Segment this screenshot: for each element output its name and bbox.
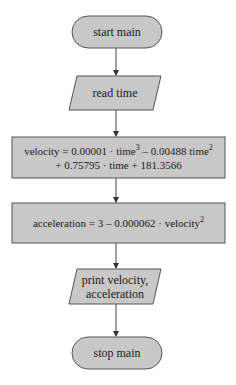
stop-node: stop main	[72, 337, 162, 369]
read-node: read time	[69, 76, 161, 110]
velocity-equation-line1: velocity = 0.00001 · time3 – 0.00488 tim…	[24, 144, 213, 158]
print-node: print velocity, acceleration	[69, 269, 161, 304]
velocity-equation-line2: + 0.75795 · time + 181.3566	[55, 158, 181, 172]
velocity-node: velocity = 0.00001 · time3 – 0.00488 tim…	[12, 137, 225, 178]
start-label: start main	[93, 25, 141, 39]
print-label-line1: print velocity,	[82, 273, 149, 287]
flowchart-canvas	[0, 0, 236, 385]
acceleration-equation: acceleration = 3 – 0.000062 · velocity2	[33, 216, 204, 230]
acceleration-node: acceleration = 3 – 0.000062 · velocity2	[12, 203, 225, 243]
print-label-line2: acceleration	[86, 287, 144, 301]
stop-label: stop main	[94, 346, 141, 360]
read-label: read time	[93, 86, 138, 100]
start-node: start main	[72, 16, 162, 48]
